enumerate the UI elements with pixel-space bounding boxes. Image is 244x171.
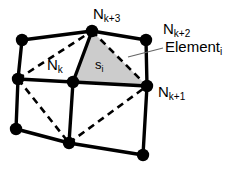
label-node-k-plus-3-sub: k+3 [104, 13, 120, 24]
mesh-diagram-svg [0, 0, 244, 171]
mesh-node-dots [10, 25, 153, 161]
label-node-k-plus-2-base: N [163, 20, 174, 37]
edge-topmid-topright [92, 31, 146, 40]
label-node-k-plus-1: Nk+1 [158, 84, 185, 99]
label-node-k-plus-1-base: N [158, 83, 169, 100]
mesh-figure: Nk+3 Nk+2 Elementi Nk si Nk+1 [0, 0, 244, 171]
node-dot-top-mid [86, 25, 98, 37]
node-dot-bottom-right [137, 149, 149, 161]
dashed-diagonals [18, 31, 147, 143]
label-area-s-i: si [95, 58, 104, 71]
label-node-k-plus-3-base: N [93, 5, 104, 22]
label-node-k-sub: k [58, 64, 63, 75]
label-element-i: Elementi [165, 39, 222, 54]
node-dot-mid-left [12, 73, 24, 85]
label-node-k-plus-3: Nk+3 [93, 6, 120, 21]
label-area-s-i-sub: i [102, 64, 104, 74]
label-node-k: Nk [47, 57, 63, 72]
edge-bottommid-bottomright [69, 143, 143, 155]
edge-midleft-midcenter [18, 79, 73, 82]
label-element-i-sub: i [220, 46, 222, 57]
node-dot-bottom-mid [63, 137, 75, 149]
dashed-edge-midleft-bottommid [18, 79, 69, 143]
edge-midcenter-bottommid [69, 82, 73, 143]
node-dot-top-right [140, 34, 152, 46]
label-area-s-i-base: s [95, 57, 102, 72]
node-dot-mid-right [141, 80, 153, 92]
label-node-k-plus-1-sub: k+1 [169, 91, 185, 102]
node-dot-bottom-left [10, 123, 22, 135]
dashed-edge-bottommid-midright [69, 86, 147, 143]
edge-topright-midright [146, 40, 147, 86]
edge-midleft-bottomleft [16, 79, 18, 129]
node-dot-mid-center [67, 76, 79, 88]
solid-mesh-edges [16, 31, 147, 155]
label-element-i-base: Element [165, 38, 220, 55]
edge-midright-bottomright [143, 86, 147, 155]
label-node-k-base: N [47, 56, 58, 73]
label-node-k-plus-2: Nk+2 [163, 21, 190, 36]
node-dot-top-left [16, 34, 28, 46]
edge-bottomleft-bottommid [16, 129, 69, 143]
